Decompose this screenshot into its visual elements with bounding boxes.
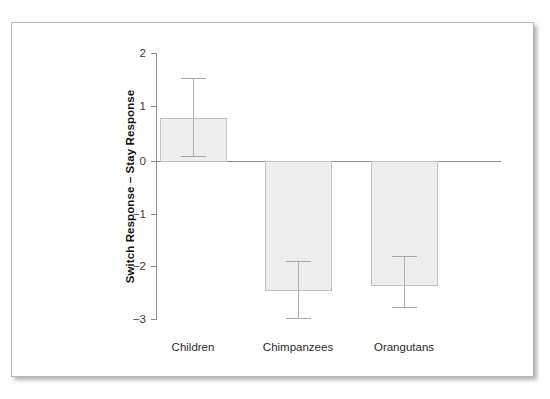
y-tick-neg2	[151, 266, 157, 267]
y-axis-title: Switch Response – Stay Response	[122, 53, 138, 320]
y-tick-neg3	[151, 319, 157, 320]
errorbar-stem-chimpanzees	[298, 261, 299, 319]
y-tick-0	[151, 161, 157, 162]
figure-frame: 2 1 0 −1 −2 −3 Switch Response – Stay Re…	[11, 22, 534, 377]
x-category-label-orangutans: Orangutans	[374, 341, 434, 353]
y-axis-line	[156, 53, 157, 320]
errorbar-cap-upper-chimpanzees	[286, 261, 311, 262]
y-tick-1	[151, 106, 157, 107]
errorbar-stem-orangutans	[404, 256, 405, 308]
errorbar-cap-upper-orangutans	[392, 256, 417, 257]
bar-chart-plot-area: 2 1 0 −1 −2 −3 Switch Response – Stay Re…	[12, 23, 535, 378]
errorbar-cap-lower-children	[181, 156, 206, 157]
errorbar-cap-upper-children	[181, 78, 206, 79]
clipped-caption-strip: ····· ·· ····· ····· · ····· ··· ····· ·…	[0, 0, 550, 11]
errorbar-cap-lower-chimpanzees	[286, 318, 311, 319]
clipped-caption-text: ····· ·· ····· ····· · ····· ··· ····· ·…	[18, 0, 172, 2]
y-tick-neg1	[151, 214, 157, 215]
x-category-label-chimpanzees: Chimpanzees	[263, 341, 333, 353]
errorbar-cap-lower-orangutans	[392, 307, 417, 308]
x-category-label-children: Children	[172, 341, 215, 353]
errorbar-stem-children	[193, 78, 194, 156]
y-tick-2	[151, 53, 157, 54]
